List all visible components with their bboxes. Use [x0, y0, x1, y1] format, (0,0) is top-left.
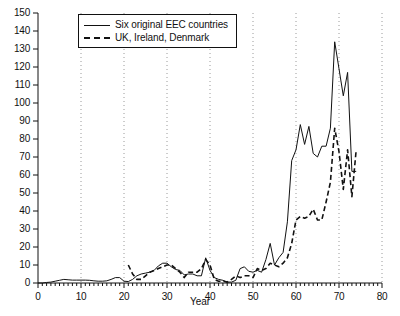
x-axis-ticks: [38, 283, 382, 288]
y-tick-label: 100: [4, 97, 30, 108]
data-series-group: [38, 42, 356, 283]
legend-item-0: Six original EEC countries: [84, 18, 228, 31]
y-tick-label: 140: [4, 25, 30, 36]
y-tick-label: 0: [4, 277, 30, 288]
y-tick-label: 30: [4, 223, 30, 234]
y-tick-label: 130: [4, 43, 30, 54]
y-tick-label: 110: [4, 79, 30, 90]
y-tick-label: 150: [4, 7, 30, 18]
legend-label-1: UK, Ireland, Denmark: [115, 32, 209, 43]
series-line-1: [128, 128, 356, 282]
y-tick-label: 90: [4, 115, 30, 126]
legend-item-1: UK, Ireland, Denmark: [84, 31, 228, 44]
chart-figure: 0102030405060708090100110120130140150 01…: [0, 0, 400, 316]
y-tick-label: 70: [4, 151, 30, 162]
y-tick-label: 20: [4, 241, 30, 252]
y-tick-label: 10: [4, 259, 30, 270]
series-line-0: [38, 42, 356, 283]
chart-legend: Six original EEC countries UK, Ireland, …: [78, 14, 237, 48]
y-tick-label: 120: [4, 61, 30, 72]
legend-key-dashed-icon: [84, 33, 110, 43]
x-axis-title: Year: [0, 296, 400, 307]
y-tick-label: 40: [4, 205, 30, 216]
y-axis-ticks: [33, 13, 38, 283]
legend-key-solid-icon: [84, 20, 110, 30]
y-tick-label: 60: [4, 169, 30, 180]
legend-label-0: Six original EEC countries: [115, 19, 228, 30]
y-tick-label: 80: [4, 133, 30, 144]
y-tick-label: 50: [4, 187, 30, 198]
